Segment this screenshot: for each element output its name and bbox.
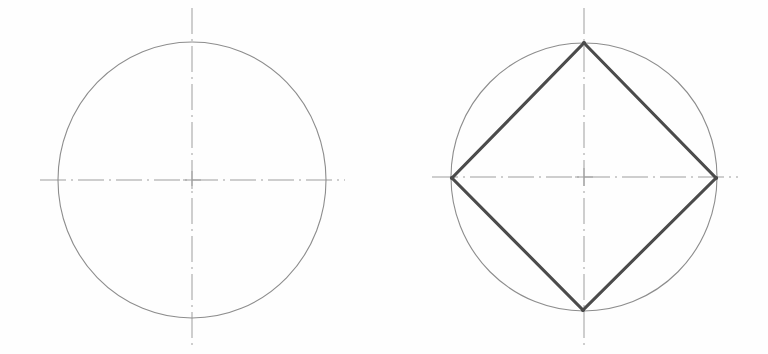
vertex-left: [450, 176, 454, 180]
vertex-bottom: [581, 308, 585, 312]
vertex-right: [714, 176, 718, 180]
drawing-canvas: Step 1 — Circle with centre lines Step 2…: [0, 0, 768, 354]
figure-left: [40, 8, 345, 345]
vertex-top: [582, 41, 586, 45]
construction-drawing: [0, 0, 768, 354]
figure-right: [432, 8, 738, 345]
